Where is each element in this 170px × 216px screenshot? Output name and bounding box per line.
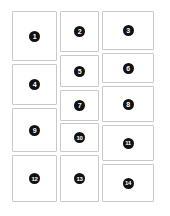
badge-number-icon: 3 xyxy=(123,25,134,36)
card-4[interactable]: 4 xyxy=(12,64,57,105)
badge-number-icon: 9 xyxy=(29,125,40,136)
badge-number-icon: 7 xyxy=(74,100,85,111)
badge-number-icon: 2 xyxy=(74,26,85,37)
badge-number-icon: 13 xyxy=(74,173,85,184)
card-1[interactable]: 1 xyxy=(12,11,57,61)
card-13[interactable]: 13 xyxy=(60,155,99,202)
badge-number-icon: 12 xyxy=(29,173,40,184)
badge-number-icon: 10 xyxy=(74,132,85,143)
badge-number-icon: 8 xyxy=(123,99,134,110)
card-8[interactable]: 8 xyxy=(102,86,154,122)
badge-number-icon: 6 xyxy=(123,63,134,74)
card-grid-board: 1491225710133681114 xyxy=(0,0,170,216)
badge-number-icon: 1 xyxy=(29,31,40,42)
card-3[interactable]: 3 xyxy=(102,11,154,50)
card-6[interactable]: 6 xyxy=(102,53,154,83)
card-5[interactable]: 5 xyxy=(60,55,99,87)
badge-number-icon: 14 xyxy=(123,178,134,189)
card-2[interactable]: 2 xyxy=(60,11,99,52)
card-9[interactable]: 9 xyxy=(12,108,57,152)
badge-number-icon: 5 xyxy=(74,66,85,77)
badge-number-icon: 4 xyxy=(29,79,40,90)
badge-number-icon: 11 xyxy=(123,138,134,149)
card-11[interactable]: 11 xyxy=(102,125,154,161)
card-7[interactable]: 7 xyxy=(60,90,99,121)
card-14[interactable]: 14 xyxy=(102,164,154,202)
card-10[interactable]: 10 xyxy=(60,123,99,152)
card-12[interactable]: 12 xyxy=(12,155,57,202)
